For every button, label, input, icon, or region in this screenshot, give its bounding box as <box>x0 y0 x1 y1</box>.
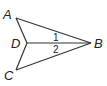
angle-label-2: 2 <box>53 44 59 55</box>
point-label-c: C <box>4 68 14 83</box>
point-label-b: B <box>94 36 103 51</box>
point-label-a: A <box>2 7 12 22</box>
point-label-d: D <box>11 36 20 51</box>
diagram-svg: A D C B 1 2 <box>0 0 107 86</box>
geometry-diagram: A D C B 1 2 <box>0 0 107 86</box>
angle-label-1: 1 <box>53 32 59 43</box>
